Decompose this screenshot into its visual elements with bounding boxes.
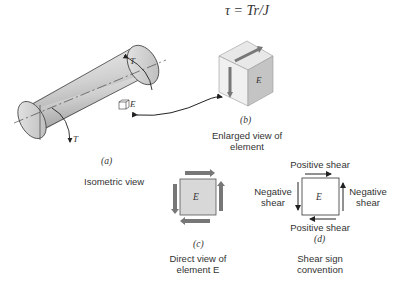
right-negative-shear-label-1: Negative <box>348 186 388 197</box>
left-negative-shear-label-2: shear <box>253 197 293 208</box>
shaft-drawing <box>12 40 222 143</box>
figure-graphics <box>0 0 414 286</box>
panel-d-tag: (d) <box>314 234 325 245</box>
direct-element-label: E <box>193 192 199 203</box>
panel-a-tag: (a) <box>101 156 112 167</box>
panel-b-caption-line1: Enlarged view of <box>212 130 282 141</box>
element-cube <box>219 41 273 106</box>
panel-c-caption-line1: Direct view of <box>163 253 233 264</box>
torque-label-right: T <box>130 56 135 67</box>
panel-b-caption-line2: element <box>212 141 282 152</box>
convention-element-label: E <box>316 192 322 203</box>
panel-b-tag: (b) <box>240 115 251 126</box>
left-negative-shear-label-1: Negative <box>253 186 293 197</box>
panel-c-tag: (c) <box>193 239 204 250</box>
panel-c-caption-line2: element E <box>163 264 233 275</box>
right-negative-shear-label-2: shear <box>348 197 388 208</box>
panel-d-caption-line2: convention <box>290 264 350 275</box>
panel-d-caption-line1: Shear sign <box>290 253 350 264</box>
shaft-element-label: E <box>130 99 136 110</box>
bottom-positive-shear-label: Positive shear <box>290 222 350 233</box>
cube-element-label: E <box>256 75 262 86</box>
top-positive-shear-label: Positive shear <box>290 159 350 170</box>
panel-a-caption: Isometric view <box>84 176 144 187</box>
shear-equation: τ = Tr/J <box>225 3 269 19</box>
torque-label-left: T <box>73 134 78 145</box>
